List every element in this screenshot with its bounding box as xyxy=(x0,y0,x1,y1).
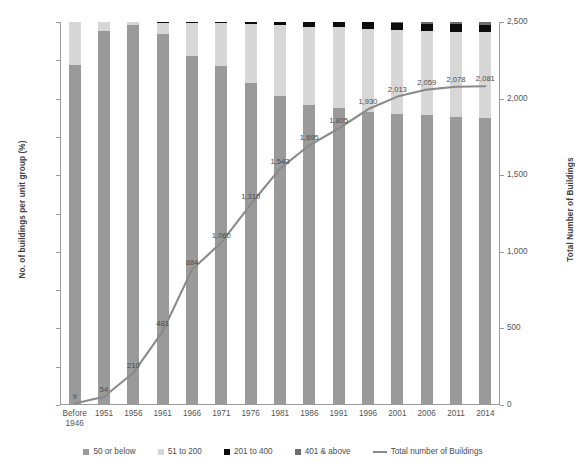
line-point-label: 2,078 xyxy=(446,75,465,84)
y-tick-label-right: 1,500 xyxy=(507,170,567,179)
line-point-label: 884 xyxy=(186,258,199,267)
y-tick-label-right: 0 xyxy=(507,400,567,409)
x-tick-label: 1986 xyxy=(300,409,318,419)
x-tick-label: 1971 xyxy=(212,409,230,419)
line-point-label: 2,059 xyxy=(417,78,436,87)
legend-label: 50 or below xyxy=(93,447,135,456)
line-point-label: 1,695 xyxy=(300,133,319,142)
line-point-label: 1,930 xyxy=(358,97,377,106)
line-point-label: 1,310 xyxy=(241,192,260,201)
legend-label: 51 to 200 xyxy=(168,447,202,456)
x-tick-label: 2001 xyxy=(388,409,406,419)
y-axis-left-title: No. of buildings per unit group (%) xyxy=(18,110,27,310)
x-tick-label: 2014 xyxy=(476,409,494,419)
x-tick-label: 1991 xyxy=(330,409,348,419)
y-tick-mark-right xyxy=(500,175,504,176)
y-tick-mark-right xyxy=(500,405,504,406)
line-point-label: 1,060 xyxy=(212,231,231,240)
x-tick-label: 1981 xyxy=(271,409,289,419)
legend-color-swatch xyxy=(224,449,230,455)
line-point-label: 1,805 xyxy=(329,116,348,125)
legend-label: 401 & above xyxy=(305,447,351,456)
y-tick-mark-left xyxy=(56,405,60,406)
x-tick-label: 1976 xyxy=(242,409,260,419)
legend-label: Total number of Buildings xyxy=(391,447,483,456)
legend-color-swatch xyxy=(83,449,89,455)
line-point-label: 481 xyxy=(156,319,169,328)
y-tick-mark-right xyxy=(500,22,504,23)
legend-line-swatch xyxy=(373,451,387,453)
x-tick-label: 2006 xyxy=(418,409,436,419)
line-point-label: 9 xyxy=(73,392,77,401)
x-tick-label: 1961 xyxy=(154,409,172,419)
y-tick-mark-right xyxy=(500,99,504,100)
y-tick-label-right: 1,000 xyxy=(507,247,567,256)
legend-item[interactable]: Total number of Buildings xyxy=(373,447,483,456)
x-tick-label: Before 1946 xyxy=(63,409,87,428)
y-axis-right-title: Total Number of Buildings xyxy=(566,110,575,310)
legend-color-swatch xyxy=(295,449,301,455)
line-point-label: 54 xyxy=(100,385,108,394)
x-tick-label: 1996 xyxy=(359,409,377,419)
y-tick-mark-right xyxy=(500,252,504,253)
legend-color-swatch xyxy=(158,449,164,455)
legend-item[interactable]: 51 to 200 xyxy=(158,447,202,456)
y-tick-label-right: 2,500 xyxy=(507,17,567,26)
line-point-label: 2,013 xyxy=(388,85,407,94)
x-tick-label: 2011 xyxy=(447,409,465,419)
legend-item[interactable]: 401 & above xyxy=(295,447,351,456)
line-point-label: 210 xyxy=(127,361,140,370)
y-tick-label-right: 500 xyxy=(507,323,567,332)
legend-item[interactable]: 50 or below xyxy=(83,447,135,456)
x-tick-label: 1966 xyxy=(183,409,201,419)
line-point-label: 2,081 xyxy=(476,74,495,83)
legend-item[interactable]: 201 to 400 xyxy=(224,447,273,456)
legend-label: 201 to 400 xyxy=(234,447,273,456)
y-tick-mark-right xyxy=(500,328,504,329)
line-point-label: 1,543 xyxy=(270,157,289,166)
y-tick-label-right: 2,000 xyxy=(507,94,567,103)
x-tick-label: 1951 xyxy=(95,409,113,419)
chart-legend: 50 or below51 to 200201 to 400401 & abov… xyxy=(0,447,566,456)
x-tick-label: 1956 xyxy=(124,409,142,419)
plot-area: 0%10%20%30%40%50%60%70%80%90%100% 05001,… xyxy=(60,22,500,405)
